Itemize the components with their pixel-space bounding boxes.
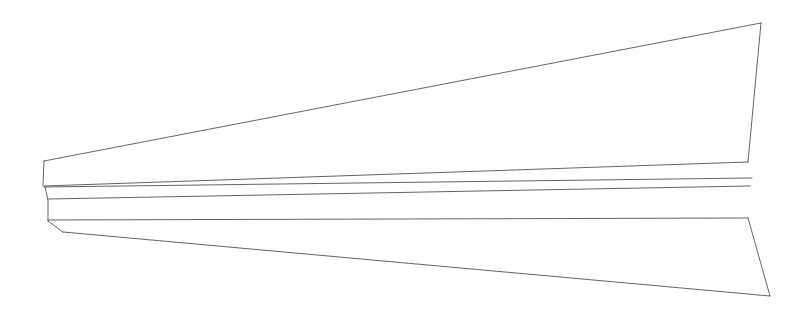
drawing-background <box>0 0 806 321</box>
wireframe-line-drawing <box>0 0 806 321</box>
figure-canvas <box>0 0 806 321</box>
